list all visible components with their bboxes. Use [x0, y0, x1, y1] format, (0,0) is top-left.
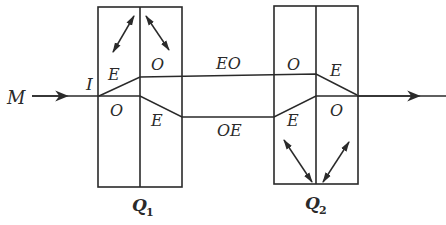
incidence-point-label: I [85, 74, 93, 94]
upper-ray-path [99, 74, 357, 96]
crystal-q2-caption: Q 2 [305, 193, 327, 217]
optic-axis-arrow-icon [146, 16, 169, 50]
q2-top-right-label: E [329, 61, 342, 80]
optic-axis-arrow-icon [284, 140, 312, 182]
lower-ray-path [99, 96, 357, 117]
q1-top-right-label: O [151, 55, 164, 74]
upper-path-label: EO [215, 54, 241, 73]
q1-bottom-left-label: O [110, 101, 123, 120]
crystal-q1-caption: Q 1 [132, 195, 154, 219]
q2-bottom-right-label: O [330, 101, 343, 120]
q1-caption-subscript: 1 [146, 206, 154, 219]
q1-caption-letter: Q [132, 195, 147, 215]
q1-top-left-label: E [107, 65, 120, 84]
lower-path-label: OE [217, 121, 242, 140]
crystal-q2 [274, 6, 358, 184]
q2-top-left-label: O [287, 55, 300, 74]
q2-caption-letter: Q [305, 193, 320, 213]
crystal-q1 [98, 7, 182, 187]
optics-diagram: M I E O O E EO OE O E E O Q 1 Q 2 [0, 0, 446, 225]
q1-bottom-right-label: E [150, 111, 163, 130]
optic-axis-arrow-icon [323, 142, 349, 182]
q2-bottom-left-label: E [286, 111, 299, 130]
input-label: M [6, 87, 26, 108]
q2-caption-subscript: 2 [319, 204, 327, 217]
optic-axis-arrow-icon [113, 16, 134, 52]
